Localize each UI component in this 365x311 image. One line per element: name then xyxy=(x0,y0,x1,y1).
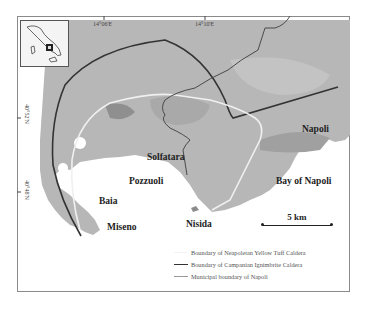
legend-item-nyt-caldera: Boundary of Neapoletan Yellow Tuff Calde… xyxy=(174,246,306,258)
lon-tick-label: 14°10'E xyxy=(195,21,214,27)
place-label-nisida: Nisida xyxy=(186,219,212,229)
scale-bar-label: 5 km xyxy=(262,212,332,222)
map-legend: Boundary of Neapoletan Yellow Tuff Calde… xyxy=(174,246,306,282)
legend-swatch xyxy=(174,264,188,265)
lat-tick-label: 40°52'N xyxy=(24,104,30,124)
place-label-baia: Baia xyxy=(99,196,117,206)
lat-tick-label: 40°48'N xyxy=(24,180,30,200)
scale-bar: 5 km xyxy=(262,212,332,228)
place-label-solfatara: Solfatara xyxy=(147,152,184,162)
legend-label: Boundary of Neapoletan Yellow Tuff Calde… xyxy=(191,249,306,256)
italy-inset-map xyxy=(20,20,69,67)
place-label-pozzuoli: Pozzuoli xyxy=(129,176,163,186)
scale-bar-line xyxy=(262,222,332,228)
lon-tick-label: 14°06'E xyxy=(93,21,112,27)
place-label-miseno: Miseno xyxy=(107,222,137,232)
legend-swatch xyxy=(174,252,188,253)
legend-item-municipal-boundary: Municipal boundary of Napoli xyxy=(174,270,306,282)
legend-item-campanian-caldera: Boundary of Campanian Ignimbrite Caldera xyxy=(174,258,306,270)
legend-label: Boundary of Campanian Ignimbrite Caldera xyxy=(191,261,302,268)
legend-label: Municipal boundary of Napoli xyxy=(191,273,268,280)
italy-outline-icon xyxy=(21,21,68,66)
place-label-bay-of-napoli: Bay of Napoli xyxy=(276,176,331,186)
legend-swatch xyxy=(174,276,188,277)
place-label-napoli: Napoli xyxy=(302,124,329,134)
